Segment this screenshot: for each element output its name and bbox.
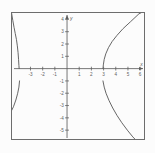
y-tick-label: -5 [60, 128, 65, 133]
x-tick-label: 1 [78, 72, 81, 77]
coordinate-graph: xy-3-2-11234564321-1-2-3-4-5 [0, 0, 155, 153]
x-axis-label: x [139, 61, 143, 67]
x-tick-label: 3 [102, 72, 105, 77]
x-tick-label: -3 [28, 72, 33, 77]
x-tick-label: -1 [53, 72, 58, 77]
x-tick-label: 5 [127, 72, 130, 77]
y-tick-label: 1 [61, 54, 64, 59]
figure-container: xy-3-2-11234564321-1-2-3-4-5 [0, 0, 155, 153]
x-tick-label: 2 [90, 72, 93, 77]
y-tick-label: -1 [60, 79, 65, 84]
x-tick-label: 6 [139, 72, 142, 77]
y-tick-label: -4 [60, 116, 65, 121]
x-tick-label: 4 [114, 72, 117, 77]
y-tick-label: 4 [61, 17, 64, 22]
x-tick-label: -2 [41, 72, 46, 77]
y-axis-label: y [69, 15, 73, 21]
y-tick-label: 2 [61, 42, 64, 47]
y-tick-label: -3 [60, 103, 65, 108]
y-tick-label: -2 [60, 91, 65, 96]
y-tick-label: 3 [61, 29, 64, 34]
